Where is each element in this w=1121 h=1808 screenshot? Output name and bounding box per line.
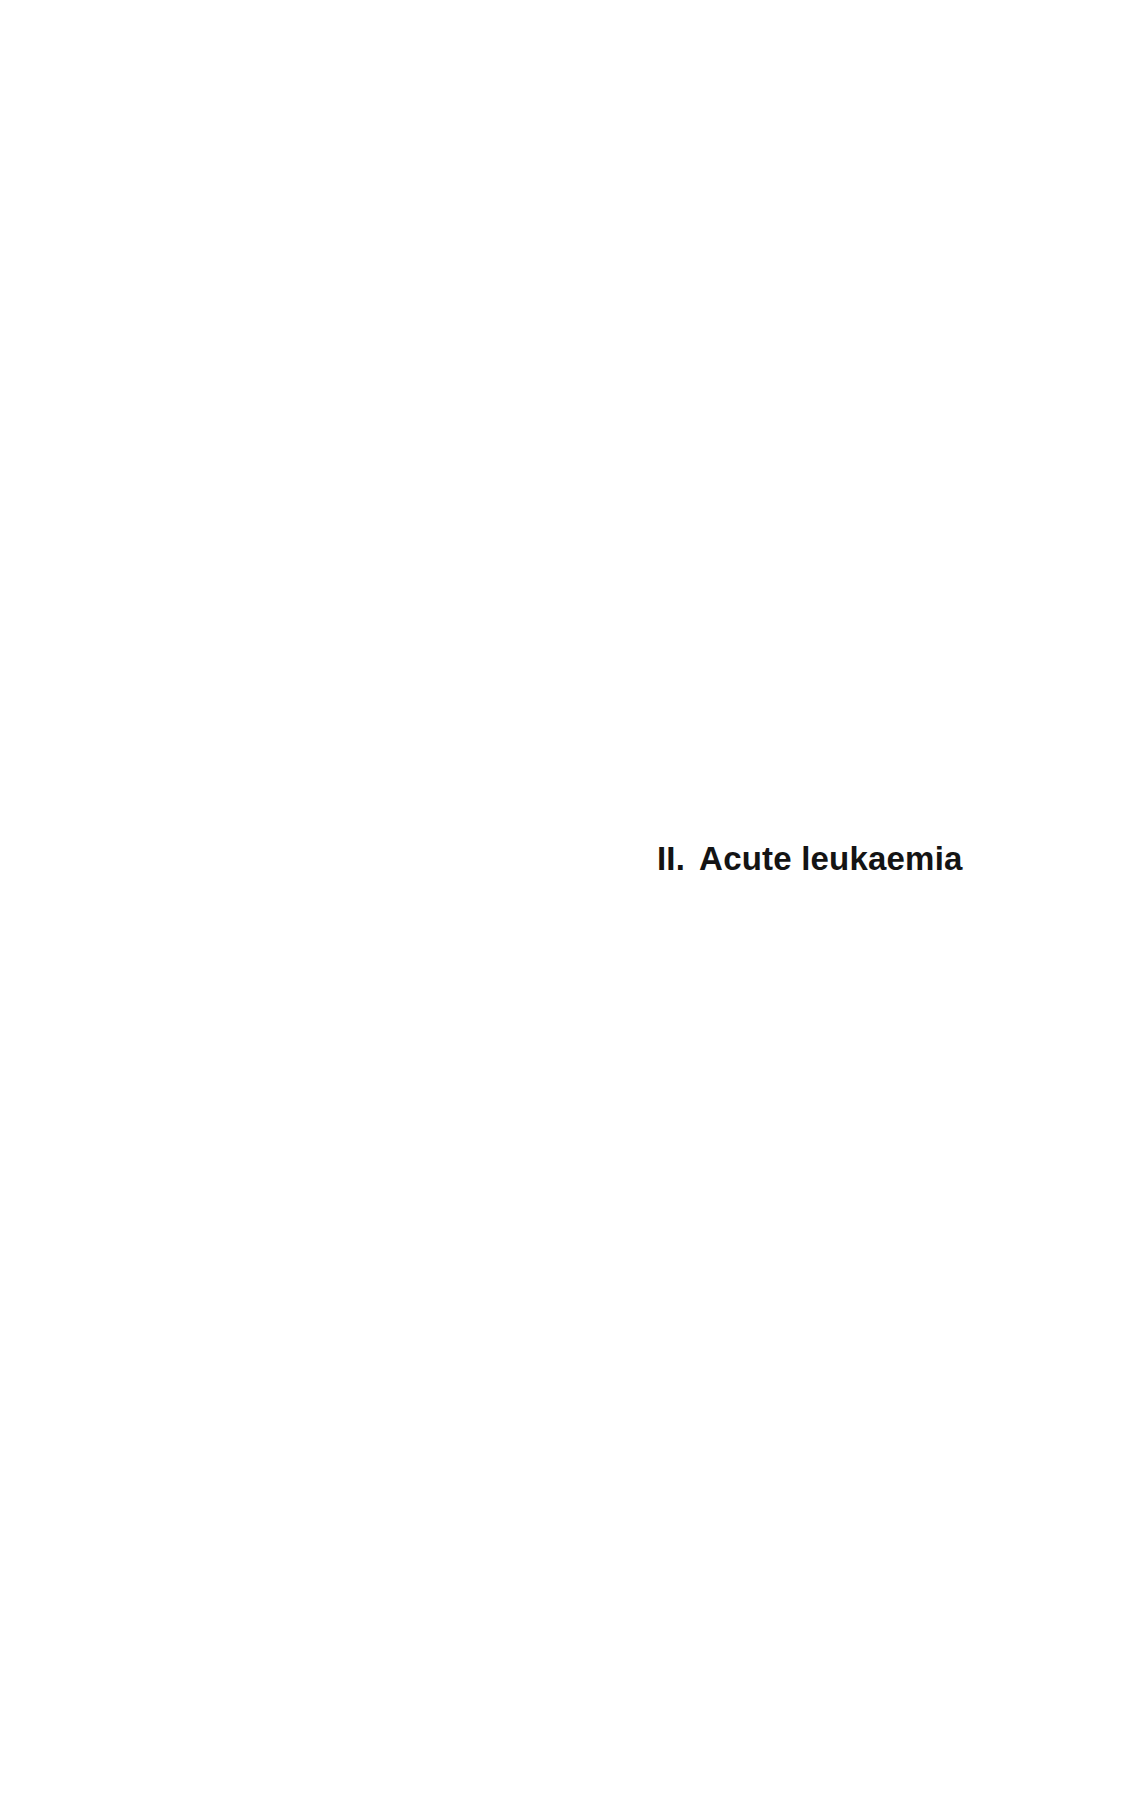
part-numeral: II. xyxy=(657,840,685,877)
document-page: II.Acute leukaemia xyxy=(0,0,1121,1808)
part-title-text: Acute leukaemia xyxy=(699,840,962,877)
part-heading: II.Acute leukaemia xyxy=(657,839,963,879)
